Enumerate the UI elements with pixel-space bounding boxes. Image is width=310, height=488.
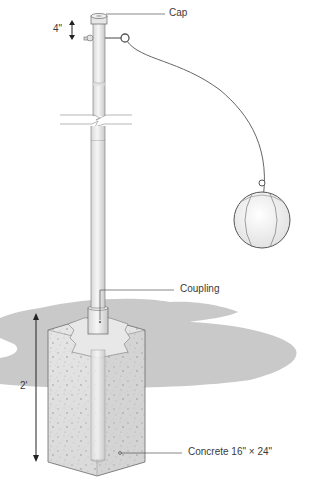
cap-height-arrow bbox=[69, 20, 75, 40]
tetherball-diagram: Cap 4" Coupling 2' Concrete 16" × 24" bbox=[0, 0, 310, 488]
tether-rope bbox=[127, 41, 264, 205]
cap-label: Cap bbox=[169, 7, 187, 18]
coupling-label: Coupling bbox=[180, 283, 219, 294]
depth-label: 2' bbox=[20, 380, 27, 391]
pole-lower bbox=[91, 350, 105, 462]
pole-upper bbox=[60, 20, 132, 308]
coupling bbox=[88, 306, 108, 334]
cap-height-label: 4" bbox=[53, 23, 62, 34]
tetherball bbox=[234, 180, 290, 248]
ground-area bbox=[0, 299, 297, 388]
concrete-label: Concrete 16" × 24" bbox=[188, 446, 272, 457]
pole-cap bbox=[84, 14, 129, 43]
